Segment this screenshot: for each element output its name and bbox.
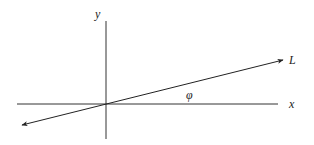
x-axis-label: x [288,97,295,111]
angle-phi-label: φ [186,88,193,102]
line-l-label: L [288,53,296,67]
y-axis-label: y [94,7,101,21]
coordinate-diagram: y x L φ [0,0,314,145]
line-l [22,60,283,125]
